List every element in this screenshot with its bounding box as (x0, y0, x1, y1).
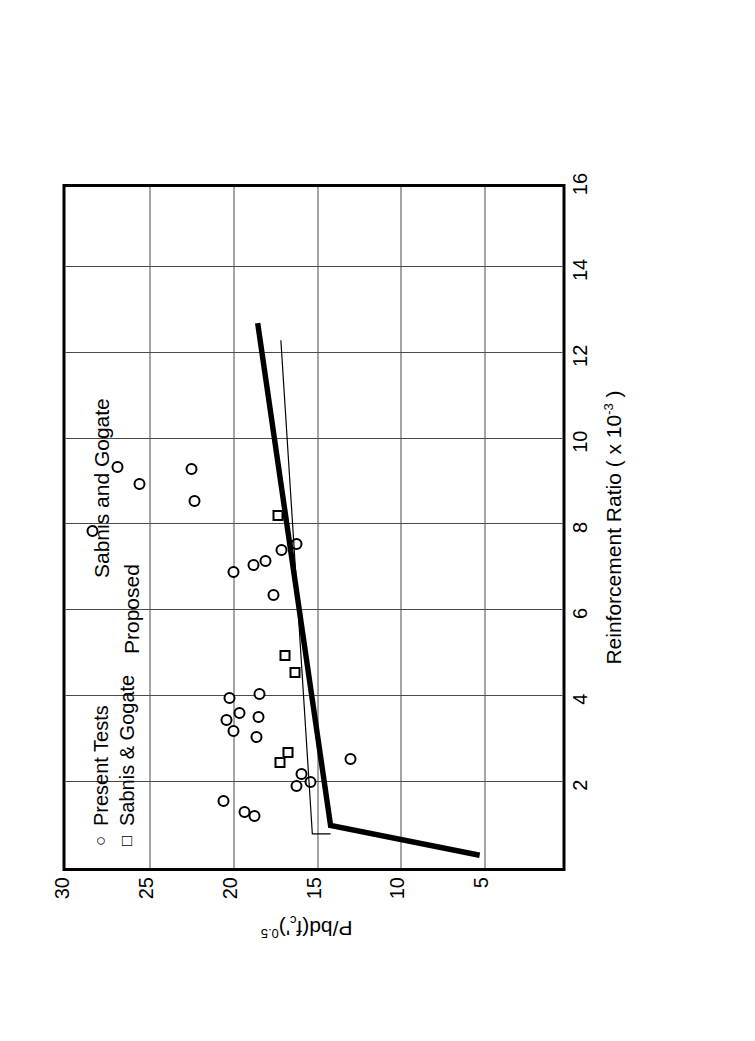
plot-area: ○ Present Tests □ Sabnis & Gogate Propos… (62, 184, 565, 871)
y-axis-tick-label: 15 (302, 877, 325, 899)
legend-label-sabnis-gogate: Sabnis & Gogate (113, 674, 139, 825)
x-axis-tick-label: 4 (568, 693, 591, 704)
y-axis-tick-labels: 51015202530 (62, 873, 565, 941)
figure-page: P/bd(fc')0.5 51015202530 ○ Present Tests… (0, 0, 755, 1041)
x-axis-tick-label: 8 (568, 521, 591, 532)
legend-item-present-tests: ○ Present Tests (87, 674, 113, 845)
chart-stage: P/bd(fc')0.5 51015202530 ○ Present Tests… (40, 61, 715, 981)
x-axis-title: Reinforcement Ratio ( x 10-3 ) (600, 184, 625, 871)
y-axis-tick-label: 10 (386, 877, 409, 899)
x-axis-tick-label: 6 (568, 607, 591, 618)
x-axis-title-main: Reinforcement Ratio ( x 10 (601, 414, 624, 664)
model-line-proposed (257, 323, 479, 855)
x-axis-tick-label: 10 (568, 430, 591, 452)
x-axis-tick-label: 12 (568, 344, 591, 366)
y-axis-tick-label: 5 (470, 877, 493, 888)
annotation-sabnis-and-gogate: Sabnis and Gogate (89, 398, 113, 578)
y-axis-tick-label: 25 (134, 877, 157, 899)
x-axis-title-end: ) (601, 390, 624, 403)
x-axis-tick-label: 16 (568, 172, 591, 194)
x-axis-title-exponent: -3 (600, 403, 615, 415)
x-axis-tick-label: 2 (568, 779, 591, 790)
legend-marker-circle-icon: ○ (89, 826, 111, 846)
y-axis-tick-label: 30 (51, 877, 74, 899)
legend: ○ Present Tests □ Sabnis & Gogate (87, 674, 140, 845)
y-axis-tick-label: 20 (218, 877, 241, 899)
legend-label-present-tests: Present Tests (87, 705, 113, 826)
legend-item-sabnis-gogate: □ Sabnis & Gogate (113, 674, 139, 845)
legend-marker-square-icon: □ (115, 826, 137, 846)
annotation-proposed: Proposed (119, 564, 143, 654)
x-axis-tick-label: 14 (568, 258, 591, 280)
